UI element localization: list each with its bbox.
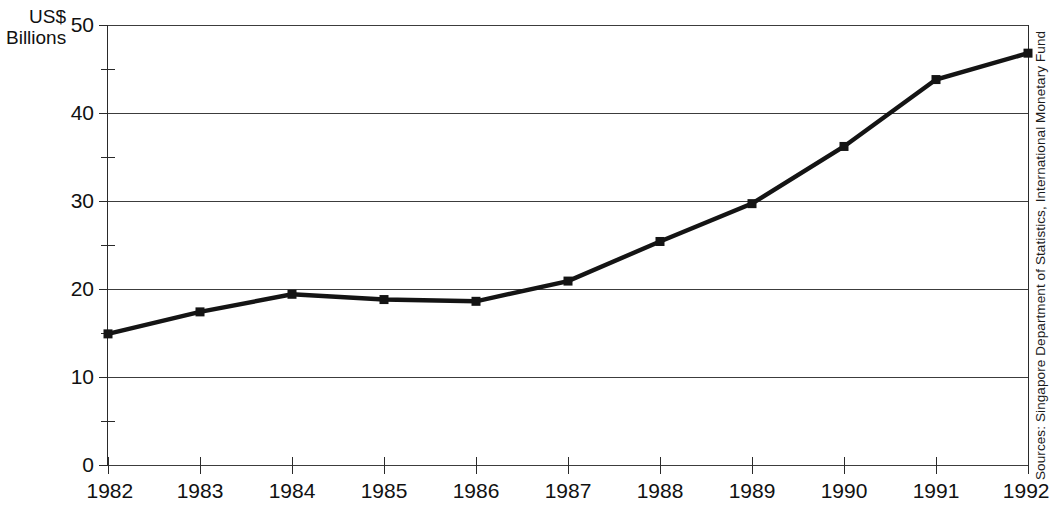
y-tick-0	[99, 465, 108, 466]
x-tick-1988	[660, 457, 661, 474]
chart-page: US$ Billions 01020304050 198219831984198…	[0, 0, 1064, 511]
x-tick-label-1989: 1989	[729, 479, 776, 503]
x-tick-label-1984: 1984	[269, 479, 316, 503]
data-point-1989	[748, 199, 757, 208]
x-tick-label-1992: 1992	[1003, 479, 1050, 503]
series-line	[108, 53, 1028, 334]
data-point-1991	[932, 75, 941, 84]
data-point-1986	[472, 297, 481, 306]
x-tick-label-1983: 1983	[177, 479, 224, 503]
data-point-1987	[564, 277, 573, 286]
x-tick-1992	[1028, 457, 1029, 474]
source-note: Sources: Singapore Department of Statist…	[1033, 60, 1048, 480]
y-tick-label-20: 20	[71, 277, 94, 301]
y-tick-label-0: 0	[82, 453, 94, 477]
y-axis-unit-line-2: Billions	[6, 27, 66, 48]
data-point-1985	[380, 295, 389, 304]
y-tick-label-50: 50	[71, 13, 94, 37]
x-tick-label-1982: 1982	[87, 479, 134, 503]
x-tick-1986	[476, 457, 477, 474]
x-tick-1990	[844, 457, 845, 474]
x-tick-label-1988: 1988	[637, 479, 684, 503]
y-axis-right-line	[1028, 25, 1029, 465]
x-tick-label-1990: 1990	[821, 479, 868, 503]
y-tick-label-40: 40	[71, 101, 94, 125]
x-tick-label-1985: 1985	[361, 479, 408, 503]
y-tick-10	[99, 377, 108, 378]
x-tick-1984	[292, 457, 293, 474]
x-tick-label-1987: 1987	[545, 479, 592, 503]
x-tick-1985	[384, 457, 385, 474]
y-axis-unit-label: US$ Billions	[6, 6, 66, 48]
y-tick-20	[99, 289, 108, 290]
data-point-1983	[196, 307, 205, 316]
y-tick-50	[99, 25, 108, 26]
plot-area: 01020304050	[108, 25, 1028, 465]
data-point-1992	[1024, 49, 1033, 58]
data-point-1990	[840, 142, 849, 151]
data-point-1982	[104, 329, 113, 338]
x-tick-1989	[752, 457, 753, 474]
data-point-1984	[288, 290, 297, 299]
data-point-1988	[656, 237, 665, 246]
x-tick-1991	[936, 457, 937, 474]
y-tick-label-30: 30	[71, 189, 94, 213]
x-tick-label-1991: 1991	[913, 479, 960, 503]
x-tick-1983	[200, 457, 201, 474]
y-tick-label-10: 10	[71, 365, 94, 389]
x-tick-1982	[108, 457, 109, 474]
y-tick-30	[99, 201, 108, 202]
x-tick-1987	[568, 457, 569, 474]
x-axis: 1982198319841985198619871988198919901991…	[108, 465, 1028, 511]
y-axis-unit-line-1: US$	[6, 6, 66, 27]
series-layer	[108, 25, 1028, 465]
x-tick-label-1986: 1986	[453, 479, 500, 503]
y-tick-40	[99, 113, 108, 114]
